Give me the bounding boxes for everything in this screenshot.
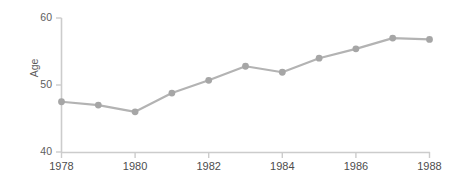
data-point [95,102,102,109]
data-point [426,36,433,43]
data-point [389,35,396,42]
data-point [242,63,249,70]
data-point [316,55,323,62]
data-point [58,98,65,105]
y-tick-label-50: 50 [30,78,52,90]
x-tick-label-1982: 1982 [186,160,232,172]
chart-plot-area [0,0,463,184]
data-point [205,77,212,84]
x-tick-label-1978: 1978 [39,160,85,172]
data-point [132,108,139,115]
x-tick-label-1980: 1980 [112,160,158,172]
data-point [169,90,176,97]
data-point [353,45,360,52]
x-tick-label-1984: 1984 [259,160,305,172]
x-tick-label-1986: 1986 [333,160,379,172]
data-line-age [62,38,430,112]
y-tick-label-40: 40 [30,145,52,157]
y-tick-label-60: 60 [30,11,52,23]
data-markers-age [58,35,433,116]
line-chart: Age 60 50 40 1978 1980 1982 1984 1986 19… [0,0,463,184]
x-tick-label-1988: 1988 [407,160,453,172]
data-point [279,69,286,76]
